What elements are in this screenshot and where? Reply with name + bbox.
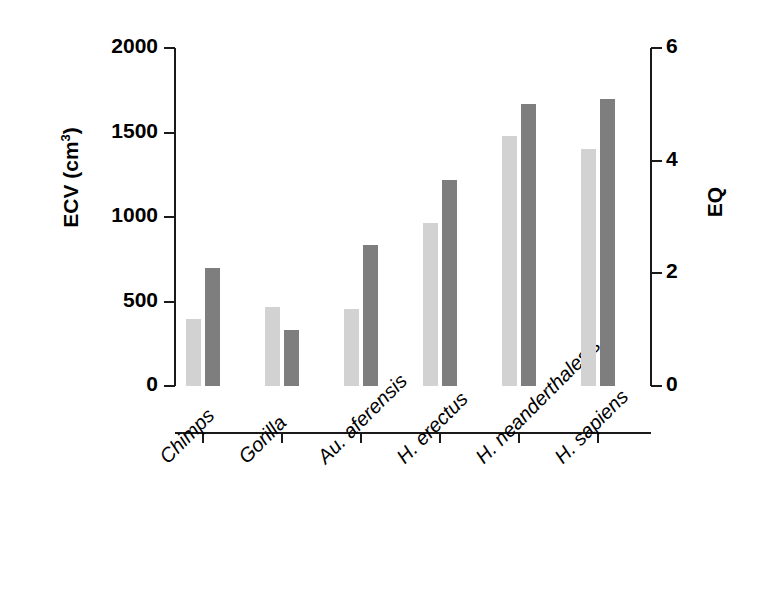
left-axis-tick-label: 1500: [48, 119, 158, 143]
left-axis-tick: [164, 132, 175, 134]
bar-eq: [205, 268, 220, 386]
bar-ecv: [186, 319, 201, 386]
right-axis-tick: [651, 272, 662, 274]
left-axis-tick-label: 500: [48, 288, 158, 312]
bar-ecv: [581, 149, 596, 386]
x-axis-category-label: Chimps: [155, 404, 219, 468]
right-axis-tick: [651, 160, 662, 162]
bar-ecv: [423, 223, 438, 386]
left-axis-tick-label: 0: [48, 372, 158, 396]
left-axis-tick: [164, 47, 175, 49]
right-axis-tick-label: 4: [666, 147, 706, 171]
bar-eq: [442, 180, 457, 386]
right-axis-line: [650, 48, 652, 386]
bar-eq: [600, 99, 615, 386]
bar-eq: [284, 330, 299, 386]
left-axis-title: ECV (cm3): [58, 88, 83, 268]
bar-ecv: [502, 136, 517, 386]
chart-figure: ECV (cm3) EQ 20001500100050006420ChimpsG…: [0, 0, 780, 609]
right-axis-tick: [651, 385, 662, 387]
bar-ecv: [344, 309, 359, 386]
right-axis-title: EQ: [703, 142, 727, 262]
left-axis-tick-label: 1000: [48, 203, 158, 227]
x-axis-category-label: H. erectus: [392, 388, 473, 469]
bar-eq: [363, 245, 378, 386]
left-axis-tick-label: 2000: [48, 34, 158, 58]
right-axis-tick-label: 2: [666, 259, 706, 283]
left-axis-tick: [164, 301, 175, 303]
right-axis-tick-label: 0: [666, 372, 706, 396]
bar-eq: [521, 104, 536, 386]
right-axis-tick-label: 6: [666, 34, 706, 58]
bar-ecv: [265, 307, 280, 386]
left-axis-tick: [164, 385, 175, 387]
right-axis-tick: [651, 47, 662, 49]
left-axis-tick: [164, 216, 175, 218]
x-axis-category-label: H. sapiens: [550, 385, 633, 468]
